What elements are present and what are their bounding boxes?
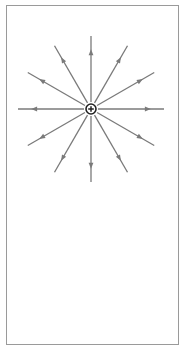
arrowhead-icon	[61, 154, 66, 160]
arrowhead-icon	[61, 57, 66, 63]
field-line	[28, 73, 85, 106]
field-line	[55, 46, 88, 103]
arrowhead-icon	[89, 163, 94, 169]
arrowhead-icon	[116, 154, 121, 160]
field-diagram	[0, 0, 189, 351]
arrowhead-icon	[89, 49, 94, 55]
field-line	[55, 115, 88, 172]
arrowhead-icon	[39, 134, 45, 139]
arrowhead-icon	[145, 107, 151, 112]
arrowhead-icon	[31, 107, 37, 112]
field-line	[95, 46, 128, 103]
field-line	[97, 73, 154, 106]
field-line	[97, 113, 154, 146]
arrowhead-icon	[116, 57, 121, 63]
arrowhead-icon	[39, 79, 45, 84]
arrowhead-icon	[136, 134, 142, 139]
positive-charge-icon	[86, 104, 96, 114]
field-line	[28, 113, 85, 146]
arrowhead-icon	[136, 79, 142, 84]
field-line	[95, 115, 128, 172]
